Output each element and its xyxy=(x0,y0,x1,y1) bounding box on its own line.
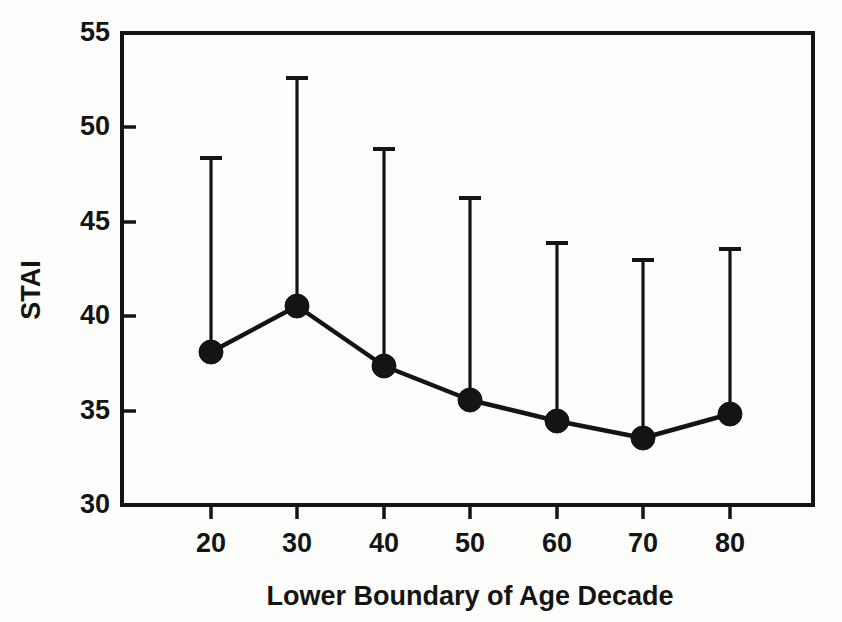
x-tick-label-20: 20 xyxy=(196,528,226,558)
x-tick-label-50: 50 xyxy=(455,528,485,558)
x-tick-label-40: 40 xyxy=(369,528,399,558)
data-point-age-20 xyxy=(199,340,223,364)
y-tick-label-35: 35 xyxy=(80,395,110,425)
y-tick-label-50: 50 xyxy=(80,111,110,141)
data-point-age-50 xyxy=(458,388,482,412)
chart-figure: 55 50 45 40 35 30 20 30 40 50 60 70 80 xyxy=(0,0,842,622)
x-tick-label-70: 70 xyxy=(628,528,658,558)
x-tick-label-60: 60 xyxy=(542,528,572,558)
y-axis-title: STAI xyxy=(16,260,46,320)
data-point-age-60 xyxy=(545,409,569,433)
line-chart-with-error-bars: 55 50 45 40 35 30 20 30 40 50 60 70 80 xyxy=(0,0,842,622)
y-tick-label-30: 30 xyxy=(80,489,110,519)
data-point-age-40 xyxy=(372,354,396,378)
y-tick-label-55: 55 xyxy=(80,17,110,47)
y-tick-label-40: 40 xyxy=(80,300,110,330)
data-point-age-30 xyxy=(285,294,309,318)
data-point-age-80 xyxy=(718,402,742,426)
y-tick-label-45: 45 xyxy=(80,206,110,236)
x-tick-label-80: 80 xyxy=(715,528,745,558)
data-point-age-70 xyxy=(631,426,655,450)
x-axis-title: Lower Boundary of Age Decade xyxy=(266,581,673,611)
x-tick-label-30: 30 xyxy=(282,528,312,558)
